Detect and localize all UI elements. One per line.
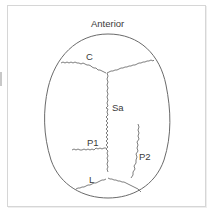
parietal-suture-2 xyxy=(131,124,139,178)
lambdoid-label: L xyxy=(89,174,94,185)
parietal-suture-1 xyxy=(72,148,106,150)
coronal-label: C xyxy=(86,51,93,62)
coronal-suture xyxy=(61,60,154,73)
anterior-label: Anterior xyxy=(91,18,124,29)
lambdoid-suture xyxy=(76,178,141,192)
skull-diagram: Anterior C Sa P1 P2 L xyxy=(0,0,215,220)
sagittal-label: Sa xyxy=(112,102,124,113)
parietal-2-label: P2 xyxy=(139,151,151,162)
sagittal-suture xyxy=(106,73,108,172)
parietal-1-label: P1 xyxy=(87,137,99,148)
